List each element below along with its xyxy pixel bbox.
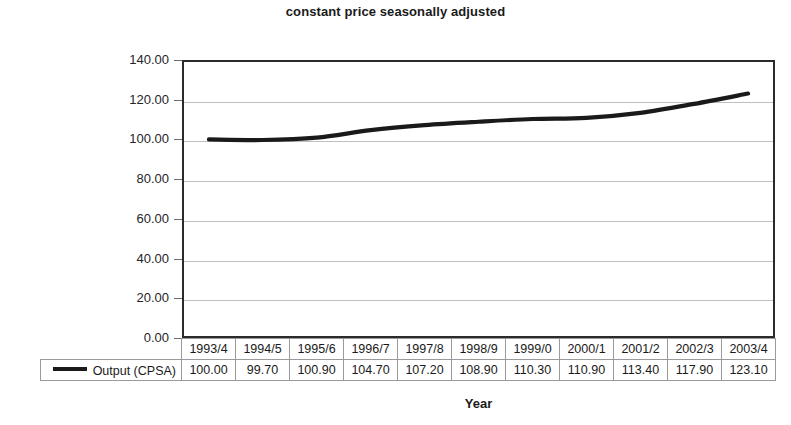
table-value-cell: 99.70: [236, 360, 290, 381]
y-tick-mark: [174, 60, 182, 61]
legend-label: Output (CPSA): [93, 363, 176, 377]
legend-line-swatch-icon: [53, 367, 87, 371]
gridline: [184, 261, 773, 262]
y-tick-label: 40.00: [99, 252, 169, 265]
table-header-cell: 1995/6: [290, 339, 344, 360]
table-series-row: Output (CPSA) 100.0099.70100.90104.70107…: [41, 360, 776, 381]
table-header-cell: 1998/9: [452, 339, 506, 360]
table-value-cell: 110.90: [560, 360, 614, 381]
chart-title: constant price seasonally adjusted: [0, 4, 791, 19]
table-header-row: 1993/41994/51995/61996/71997/81998/91999…: [41, 339, 776, 360]
table-header-cell: 1996/7: [344, 339, 398, 360]
table-value-cell: 104.70: [344, 360, 398, 381]
table-header-cell: 1999/0: [506, 339, 560, 360]
table-value-cell: 100.00: [182, 360, 236, 381]
y-tick-label: 20.00: [99, 291, 169, 304]
table-header-cell: 1993/4: [182, 339, 236, 360]
gridline: [184, 102, 773, 103]
y-tick-label: 140.00: [99, 53, 169, 66]
x-axis-title: Year: [182, 396, 775, 411]
y-tick-mark: [174, 139, 182, 140]
gridline: [184, 181, 773, 182]
table-header-cell: 2000/1: [560, 339, 614, 360]
table-header-cell: 2003/4: [722, 339, 776, 360]
y-tick-mark: [174, 219, 182, 220]
y-tick-label: 60.00: [99, 212, 169, 225]
table-header-cell: 1994/5: [236, 339, 290, 360]
y-tick-label: 80.00: [99, 172, 169, 185]
table-value-cell: 100.90: [290, 360, 344, 381]
y-tick-label: 100.00: [99, 132, 169, 145]
table-value-cell: 117.90: [668, 360, 722, 381]
legend-item-output-cpsa: Output (CPSA): [41, 360, 182, 381]
y-tick-mark: [174, 259, 182, 260]
table-value-cell: 108.90: [452, 360, 506, 381]
table-value-cell: 110.30: [506, 360, 560, 381]
table-value-cell: 113.40: [614, 360, 668, 381]
table-header-corner-cell: [41, 339, 182, 360]
gridline: [184, 300, 773, 301]
y-tick-mark: [174, 179, 182, 180]
y-tick-mark: [174, 100, 182, 101]
table-header-cell: 1997/8: [398, 339, 452, 360]
plot-area: [182, 60, 775, 338]
gridline: [184, 221, 773, 222]
table-header-cell: 2002/3: [668, 339, 722, 360]
data-table: 1993/41994/51995/61996/71997/81998/91999…: [40, 338, 776, 381]
table-value-cell: 123.10: [722, 360, 776, 381]
table-header-cell: 2001/2: [614, 339, 668, 360]
gridline: [184, 141, 773, 142]
y-tick-mark: [174, 298, 182, 299]
y-tick-label: 120.00: [99, 93, 169, 106]
table-value-cell: 107.20: [398, 360, 452, 381]
